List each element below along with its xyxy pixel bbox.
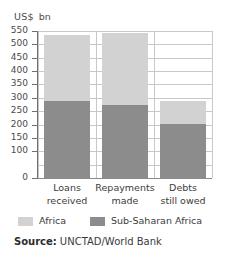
unit-currency: US$ [14,11,34,22]
bar-loans-received [44,35,90,178]
x-axis-label: Repaymentsmade [93,182,157,207]
y-axis-tick [32,84,37,85]
source-label: Source: [14,236,57,247]
y-axis-tick-label: 250 [11,106,28,115]
axis-baseline [38,178,212,179]
x-axis-label: Loansreceived [35,182,99,207]
category-separator [154,31,155,178]
stacked-bar-chart: US$bn 0100150200250300350400450500550 Lo… [0,0,230,258]
plot-area [38,31,212,178]
x-axis-category-labels: LoansreceivedRepaymentsmadeDebtsstill ow… [38,182,212,212]
legend-label: Africa [39,216,66,226]
y-axis-tick-label: 400 [11,66,28,75]
gridline [38,31,212,32]
legend-swatch [90,217,105,226]
y-axis-tick [32,31,37,32]
y-axis-tick-label: 450 [11,53,28,62]
axis-unit-caption: US$bn [14,11,51,22]
y-axis-tick [32,44,37,45]
y-axis-tick [32,58,37,59]
y-axis-tick [32,151,37,152]
y-axis-tick-label: 0 [22,173,28,182]
bar-debts-still-owed [160,101,206,179]
source-line: Source:UNCTAD/World Bank [14,236,162,247]
x-axis-label-line: made [93,195,157,208]
y-axis-tick [32,71,37,72]
bar-segment-sub-saharan-africa [102,105,148,178]
y-axis-tick-label: 500 [11,39,28,48]
x-axis-label-line: Repayments [93,182,157,195]
bar-segment-africa [160,101,206,124]
legend-swatch [18,217,33,226]
legend-item: Africa [18,216,66,226]
x-axis-label-line: Loans [35,182,99,195]
y-axis-tick-label: 550 [11,26,28,35]
bar-segment-sub-saharan-africa [160,124,206,178]
y-axis-tick-label: 100 [11,146,28,155]
y-axis-tick [32,111,37,112]
y-axis-tick [32,178,37,179]
legend-label: Sub-Saharan Africa [111,216,202,226]
bar-repayments-made [102,33,148,178]
x-axis-label-line: received [35,195,99,208]
y-axis-tick-label: 350 [11,79,28,88]
y-axis-tick [32,98,37,99]
bar-segment-sub-saharan-africa [44,101,90,178]
y-axis-tick [32,125,37,126]
bar-segment-africa [102,33,148,105]
unit-suffix: bn [39,11,51,22]
category-separator [96,31,97,178]
bar-segment-africa [44,35,90,101]
legend-item: Sub-Saharan Africa [90,216,202,226]
x-axis-label: Debtsstill owed [151,182,215,207]
x-axis-label-line: still owed [151,195,215,208]
chart-legend: AfricaSub-Saharan Africa [18,216,224,230]
y-axis-tick-label: 200 [11,120,28,129]
y-axis-tick [32,138,37,139]
y-axis-tick-label: 150 [11,133,28,142]
y-axis-tick-label: 300 [11,93,28,102]
category-separator [38,31,39,178]
source-text: UNCTAD/World Bank [60,236,162,247]
x-axis-label-line: Debts [151,182,215,195]
category-separator [212,31,213,178]
